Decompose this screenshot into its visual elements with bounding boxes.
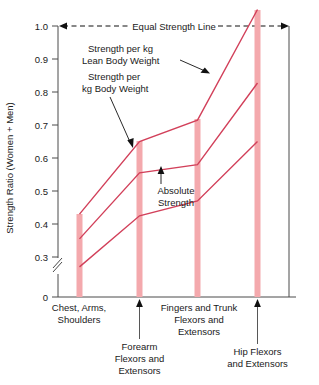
strength-ratio-chart: Strength Ratio (Women + Men) 1.0 0.9 0.8… bbox=[0, 0, 319, 385]
y-tick-label-0: 0 bbox=[43, 292, 48, 303]
y-tick-label-0p4: 0.4 bbox=[35, 219, 48, 230]
annotation-body-arrow-icon bbox=[127, 138, 133, 148]
series-line-lean-body-weight bbox=[80, 10, 258, 215]
range-bar-chest-arms-shoulders bbox=[77, 214, 83, 297]
category-label-fingers-line3: Extensors bbox=[178, 326, 220, 337]
equal-line-arrow-left-icon bbox=[59, 23, 67, 30]
category-label-chest-line2: Shoulders bbox=[58, 314, 101, 325]
range-bar-hip-flexors bbox=[255, 10, 261, 297]
y-tick-label-0p9: 0.9 bbox=[35, 54, 48, 65]
annotation-lean-body-weight-line2: Lean Body Weight bbox=[82, 55, 160, 66]
category-label-forearm-line2: Flexors and bbox=[115, 353, 165, 364]
category-label-forearm-line1: Forearm bbox=[122, 341, 158, 352]
y-tick-label-1p0: 1.0 bbox=[35, 21, 48, 32]
annotation-body-weight-line2: kg Body Weight bbox=[82, 83, 149, 94]
equal-strength-line-label: Equal Strength Line bbox=[132, 21, 215, 32]
annotation-absolute-strength-line1: Absolute bbox=[158, 185, 195, 196]
range-bar-fingers-trunk bbox=[195, 119, 201, 297]
series-line-body-weight bbox=[80, 83, 258, 239]
category-label-hip-line1: Hip Flexors bbox=[233, 346, 281, 357]
equal-line-arrow-right-icon bbox=[281, 23, 289, 30]
annotation-lean-leader bbox=[180, 60, 205, 71]
y-tick-label-0p7: 0.7 bbox=[35, 120, 48, 131]
annotation-lean-arrow-icon bbox=[201, 68, 211, 74]
category-label-hip-line2: and Extensors bbox=[227, 358, 288, 369]
category-label-fingers-line2: Flexors and bbox=[174, 314, 224, 325]
category-label-forearm-line3: Extensors bbox=[118, 365, 160, 376]
chart-figure: Strength Ratio (Women + Men) 1.0 0.9 0.8… bbox=[0, 0, 319, 385]
range-bar-forearm bbox=[137, 141, 143, 297]
category-label-fingers-line1: Fingers and Trunk bbox=[161, 302, 238, 313]
category-arrow-hip-icon bbox=[254, 299, 261, 307]
annotation-body-leader bbox=[110, 97, 130, 142]
y-tick-label-0p8: 0.8 bbox=[35, 87, 48, 98]
annotation-absolute-strength-line2: Strength bbox=[158, 197, 194, 208]
y-tick-group bbox=[52, 26, 58, 297]
category-arrow-forearm-icon bbox=[136, 299, 143, 307]
annotation-lean-body-weight-line1: Strength per kg bbox=[88, 43, 153, 54]
y-axis-title: Strength Ratio (Women + Men) bbox=[4, 102, 15, 234]
y-tick-label-0p6: 0.6 bbox=[35, 153, 48, 164]
y-tick-label-0p5: 0.5 bbox=[35, 186, 48, 197]
category-label-chest-line1: Chest, Arms, bbox=[52, 302, 106, 313]
y-tick-label-0p3: 0.3 bbox=[35, 252, 48, 263]
annotation-body-weight-line1: Strength per bbox=[88, 71, 140, 82]
